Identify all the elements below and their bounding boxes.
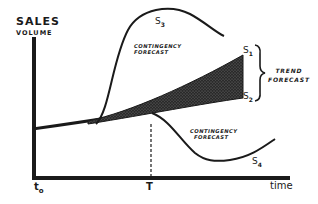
annotation-contingency-upper: CONTINGENCY FORECAST xyxy=(134,44,182,56)
curve-label-s3: S3 xyxy=(155,17,165,28)
s3-sub: 3 xyxy=(161,21,165,28)
tick-t0-sub: o xyxy=(39,187,44,195)
annotation-contingency-lower: CONTINGENCY FORECAST xyxy=(190,129,238,141)
sales-forecast-diagram: SALES VOLUME to T time S3 S1 S2 S4 CONTI… xyxy=(0,0,318,204)
tick-label-T: T xyxy=(146,182,153,192)
trend-line2: FORECAST xyxy=(268,75,310,84)
trend-forecast-band xyxy=(88,55,243,124)
curve-label-s2: S2 xyxy=(243,92,253,103)
trend-forecast-brace xyxy=(255,45,265,101)
annotation-trend-forecast: TREND FORECAST xyxy=(268,66,310,84)
y-axis-subtitle: VOLUME xyxy=(16,30,53,37)
trend-line1: TREND xyxy=(268,66,310,75)
contingency-upper-line2: FORECAST xyxy=(134,50,182,56)
curve-label-s4: S4 xyxy=(252,157,262,168)
x-axis-label: time xyxy=(270,181,293,191)
tick-label-t0: to xyxy=(34,182,44,195)
curve-label-s1: S1 xyxy=(243,46,253,57)
y-axis-title: SALES xyxy=(16,16,60,27)
contingency-lower-line2: FORECAST xyxy=(190,135,238,141)
s1-sub: 1 xyxy=(249,50,253,57)
s2-sub: 2 xyxy=(249,96,253,103)
s4-sub: 4 xyxy=(258,161,262,168)
